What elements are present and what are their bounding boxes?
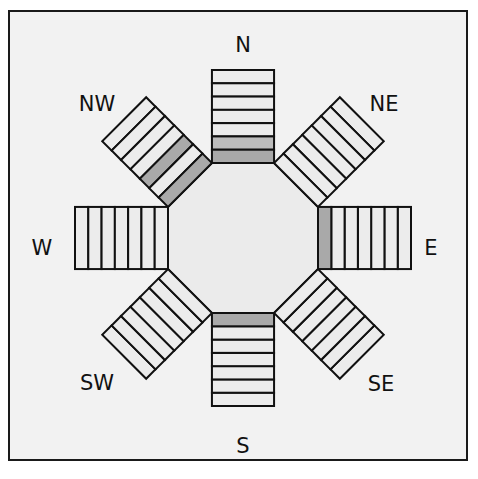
bar-n bbox=[212, 70, 274, 163]
label-se: SE bbox=[368, 374, 395, 395]
bar-segment bbox=[212, 366, 274, 379]
bar-segment bbox=[212, 83, 274, 96]
bar-segment bbox=[115, 207, 128, 269]
bar-segment bbox=[212, 393, 274, 406]
bar-segment bbox=[212, 97, 274, 110]
bar-segment bbox=[212, 340, 274, 353]
label-e: E bbox=[424, 238, 437, 259]
bar-segment bbox=[212, 326, 274, 339]
label-n: N bbox=[235, 35, 251, 56]
label-s: S bbox=[236, 436, 249, 457]
bar-e bbox=[318, 207, 411, 269]
bar-segment bbox=[398, 207, 411, 269]
label-w: W bbox=[32, 238, 53, 259]
bar-segment bbox=[345, 207, 358, 269]
bar-segment bbox=[155, 207, 168, 269]
bar-segment bbox=[141, 207, 154, 269]
bar-segment bbox=[212, 136, 274, 149]
bar-segment bbox=[358, 207, 371, 269]
bar-segment bbox=[212, 70, 274, 83]
bar-segment bbox=[371, 207, 384, 269]
bar-w bbox=[75, 207, 168, 269]
bar-segment bbox=[212, 313, 274, 326]
label-sw: SW bbox=[80, 373, 114, 394]
label-nw: NW bbox=[79, 94, 115, 115]
bar-segment bbox=[212, 150, 274, 163]
bar-s bbox=[212, 313, 274, 406]
label-ne: NE bbox=[370, 94, 399, 115]
bar-segment bbox=[128, 207, 141, 269]
bar-segment bbox=[212, 123, 274, 136]
compass-diagram bbox=[0, 0, 478, 479]
bar-segment bbox=[102, 207, 115, 269]
bar-segment bbox=[212, 110, 274, 123]
bar-segment bbox=[384, 207, 397, 269]
bar-segment bbox=[88, 207, 101, 269]
bar-segment bbox=[318, 207, 331, 269]
bar-segment bbox=[212, 353, 274, 366]
bar-segment bbox=[212, 379, 274, 392]
bar-segment bbox=[331, 207, 344, 269]
bar-segment bbox=[75, 207, 88, 269]
